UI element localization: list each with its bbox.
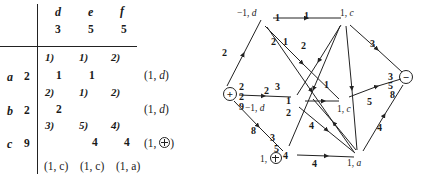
edge-label-cross-2: 2 [301,40,306,51]
node-mid-left-sym: d [260,103,265,113]
node-label-top-left: −1, d [237,8,257,18]
node-top-left-pre: −1, [237,8,252,18]
edge-label-cross-3: 3 [275,81,280,92]
column-value-f: 5 [121,24,127,36]
row-value-c: 9 [24,138,30,150]
row-b-index-f: 2) [111,87,120,98]
row-value-a: 2 [24,71,30,83]
row-label-c: c [7,138,12,150]
row-c-cell-f: 4 [124,137,130,149]
row-b-index-d: 2) [45,87,54,98]
edge-label-bot-4: 4 [312,158,317,169]
edge-label-midleft-2: 2 [286,107,291,118]
row-c-tag: (1, ) [144,137,174,150]
edge-label-mid-4: 4 [309,120,314,131]
edge-label-sink-in-8: 8 [390,89,395,100]
edge-label-src-botleft: 8 [251,125,256,136]
row-a-cell-e: 1 [89,70,95,82]
circled-plus-icon [159,137,170,148]
node-mid-right-sym: c [347,104,351,114]
tableau-horizontal-rule [0,46,137,47]
row-c-tag-suffix: ) [170,137,174,149]
column-header-e: e [88,6,93,18]
node-mid-left-pre: −1, [245,103,260,113]
edge-label-botleft-3: 3 [270,132,275,143]
node-top-left-sym: d [252,8,257,18]
row-a-tag: (1, d) [144,70,169,82]
row-c-index-e: 5) [79,120,88,131]
figure-root: d e f 3 5 5 a 2 1) 1) 2) 1 1 (1, d) b 2 … [0,0,426,178]
row-a-index-f: 2) [111,52,120,63]
edge-label-source-out-3: 9 [239,101,244,112]
edge-label-cross-1: 1 [324,79,329,90]
edge-label-midright-5: 5 [367,96,372,107]
row-c-tag-prefix: (1, [144,137,159,149]
column-value-d: 3 [55,24,61,36]
row-label-a: a [7,71,13,83]
row-b-tag: (1, d) [144,104,169,116]
edge-label-topleft-topright: 1 [304,10,309,21]
row-a-cell-d: 1 [56,70,62,82]
row-b-index-e: 1) [79,87,88,98]
row-b-tag-suffix: ) [165,103,169,115]
row-a-index-d: 1) [45,52,54,63]
edge-label-botright-sink-4: 4 [377,122,382,133]
edge-label-topright-sink: 3 [370,38,375,49]
transportation-tableau: d e f 3 5 5 a 2 1) 1) 2) 1 1 (1, d) b 2 … [0,0,213,178]
row-a-index-e: 1) [79,52,88,63]
node-top-right-sym: c [350,8,354,18]
edge-label-src-midleft: 2 [264,85,269,96]
row-label-b: b [7,105,13,117]
tableau-vertical-rule [37,4,38,174]
node-bottom-right-sym: a [357,158,362,168]
node-label-top-right: 1, c [340,8,354,18]
node-bottom-left-pre: 1, [260,154,270,164]
footer-tag-f: (1, a) [116,161,140,173]
footer-tag-d: (1, c) [44,161,68,173]
row-a-tag-prefix: (1, [144,69,159,81]
edge-label-botleft-5: 5 [274,143,279,154]
edge-label-midleft-1: 1 [286,95,291,106]
row-a-tag-suffix: ) [165,69,169,81]
footer-tag-e: (1, c) [80,161,104,173]
source-node-symbol: + [224,88,236,100]
row-c-index-f: 4) [111,120,120,131]
column-value-e: 5 [88,24,94,36]
row-b-tag-prefix: (1, [144,103,159,115]
network-flow-diagram: + − −1, d 1, c −1, d 1, c 1, 1, a 2 2 8 … [213,0,426,178]
sink-node: − [399,70,413,84]
edge-label-src-topleft: 2 [222,47,227,58]
source-node: + [223,87,237,101]
row-c-cell-e: 4 [92,137,98,149]
node-label-mid-right: 1, c [337,104,351,114]
row-b-cell-d: 2 [56,104,62,116]
edge-label-topleft-near: 1 [275,12,280,23]
node-label-bottom-right: 1, a [347,158,361,168]
edge-label-topleft-down-b: 1 [283,36,288,47]
sink-node-symbol: − [400,71,412,83]
edge-label-topleft-down-a: 2 [271,36,276,47]
node-mid-right-pre: 1, [337,104,347,114]
column-header-f: f [120,5,124,17]
column-header-d: d [55,6,61,18]
node-label-mid-left: −1, d [245,103,265,113]
edge-label-botleft-4: 4 [283,150,288,161]
node-top-right-pre: 1, [340,8,350,18]
node-bottom-right-pre: 1, [347,158,357,168]
row-value-b: 2 [24,105,30,117]
row-c-index-d: 3) [45,120,54,131]
